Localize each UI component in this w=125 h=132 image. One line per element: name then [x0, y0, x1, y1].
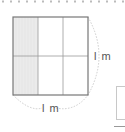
- answer-underline: [114, 126, 125, 127]
- answer-box[interactable]: [116, 86, 125, 120]
- square-diagram: [0, 0, 125, 132]
- right-dimension-label: l m: [94, 50, 112, 62]
- bottom-dimension-label: l m: [42, 102, 60, 114]
